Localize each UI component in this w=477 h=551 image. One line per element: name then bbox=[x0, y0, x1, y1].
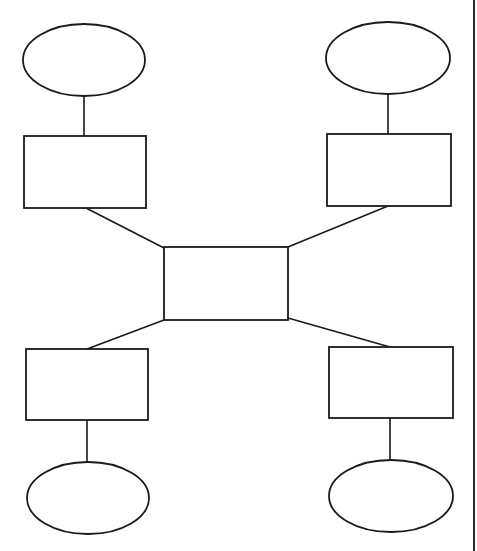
bottom-right-box bbox=[329, 347, 453, 418]
bottom-left-ellipse bbox=[27, 462, 149, 534]
top-right-ellipse bbox=[326, 22, 450, 94]
top-right-box bbox=[327, 134, 451, 206]
bottom-left-box bbox=[26, 349, 148, 420]
center-box bbox=[164, 247, 288, 320]
top-left-box bbox=[24, 136, 146, 208]
bottom-right-ellipse bbox=[329, 460, 453, 532]
top-right-link-line bbox=[288, 206, 388, 247]
bottom-right-link-line bbox=[288, 318, 390, 347]
bottom-left-link-line bbox=[87, 320, 164, 349]
top-left-ellipse bbox=[23, 24, 145, 96]
diagram-canvas bbox=[0, 0, 477, 551]
top-left-link-line bbox=[86, 208, 164, 248]
